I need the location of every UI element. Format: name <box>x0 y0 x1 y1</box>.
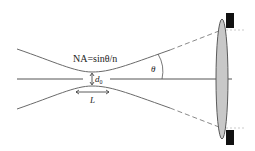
beam-upper-dashed <box>170 31 219 50</box>
na-formula-label: NA=sinθ/n <box>73 53 117 64</box>
waist-label: d0 <box>95 74 103 85</box>
angle-arc <box>158 54 163 79</box>
beam-focus-diagram: NA=sinθ/n d0 L θ <box>0 0 255 151</box>
depth-of-focus-arrow <box>76 90 109 94</box>
aperture-top <box>226 13 234 28</box>
depth-of-focus-label: L <box>89 95 95 105</box>
angle-label: θ <box>151 64 156 74</box>
waist-arrow <box>90 73 94 85</box>
aperture-bottom <box>226 130 234 145</box>
beam-lower-dashed <box>170 108 219 127</box>
lens <box>216 19 228 139</box>
